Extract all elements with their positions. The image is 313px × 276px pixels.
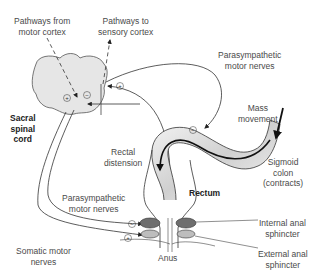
label-sigmoid-colon: Sigmoidcolon(contracts) <box>263 157 303 189</box>
label-anus: Anus <box>158 253 177 264</box>
svg-text:+: + <box>126 235 130 241</box>
label-somatic-motor: Somatic motornerves <box>16 246 71 267</box>
label-internal-sphincter: Internal analsphincter <box>259 218 306 239</box>
internal-sphincter-left <box>140 218 160 228</box>
label-mass-movement: Massmovement <box>238 103 278 124</box>
label-pathways-from-motor: Pathways frommotor cortex <box>14 16 70 37</box>
external-sphincter-right <box>177 230 195 238</box>
svg-text:−: − <box>130 221 134 227</box>
label-sacral-spinal-cord: Sacralspinalcord <box>10 113 36 145</box>
internal-sphincter-right <box>176 218 196 228</box>
spinal-cord-section <box>32 54 107 115</box>
svg-text:−: − <box>191 127 195 133</box>
svg-text:+: + <box>118 83 122 89</box>
somatic-motor-nerve <box>38 112 142 235</box>
label-parasympathetic-top: Parasympatheticmotor nerves <box>218 50 281 71</box>
label-pathways-to-sensory: Pathways tosensory cortex <box>98 16 153 37</box>
svg-text:−: − <box>85 92 89 98</box>
external-sphincter-left <box>141 230 159 238</box>
svg-text:+: + <box>65 95 69 101</box>
label-external-sphincter: External analsphincter <box>258 249 308 270</box>
label-rectum: Rectum <box>189 188 220 199</box>
label-rectal-distension: Rectaldistension <box>104 147 142 168</box>
parasympathetic-nerve-top <box>106 64 222 128</box>
label-parasympathetic-bottom: Parasympatheticmotor nerves <box>62 193 125 214</box>
